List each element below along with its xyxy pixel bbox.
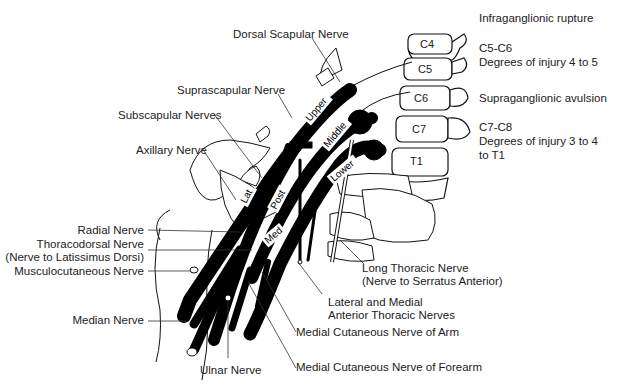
label-median-nerve: Median Nerve — [72, 314, 144, 327]
label-thoracodorsal-nerve: Thoracodorsal Nerve — [37, 238, 144, 251]
label-subscapular-nerves: Subscapular Nerves — [118, 109, 222, 122]
legend-supraganglionic-levels: C7-C8 — [479, 120, 512, 134]
label-anterior-thoracic-nerves-sub: Anterior Thoracic Nerves — [328, 309, 455, 322]
label-thoracodorsal-nerve-sub: (Nerve to Latissimus Dorsi) — [5, 251, 144, 264]
label-ulnar-nerve: Ulnar Nerve — [200, 364, 261, 377]
label-medial-cutaneous-nerve-arm: Medial Cutaneous Nerve of Arm — [296, 326, 459, 339]
legend-supraganglionic-title: Supraganglionic avulsion — [479, 91, 607, 105]
label-anterior-thoracic-nerves: Lateral and Medial — [328, 296, 423, 309]
legend-infraganglionic-title: Infraganglionic rupture — [479, 11, 593, 25]
legend-supraganglionic-degrees: Degrees of injury 3 to 4 — [479, 134, 598, 148]
label-medial-cutaneous-nerve-forearm: Medial Cutaneous Nerve of Forearm — [296, 361, 482, 374]
label-long-thoracic-nerve: Long Thoracic Nerve — [362, 262, 469, 275]
legend-infraganglionic-levels: C5-C6 — [479, 41, 512, 55]
vertebra-c5: C5 — [418, 63, 432, 75]
vertebra-c7: C7 — [412, 123, 426, 135]
legend-supraganglionic-degrees-2: to T1 — [479, 148, 505, 162]
vertebra-c4: C4 — [420, 38, 434, 50]
label-dorsal-scapular-nerve: Dorsal Scapular Nerve — [233, 28, 349, 41]
label-long-thoracic-nerve-sub: (Nerve to Serratus Anterior) — [362, 275, 503, 288]
label-musculocutaneous-nerve: Musculocutaneous Nerve — [14, 265, 144, 278]
label-radial-nerve: Radial Nerve — [78, 224, 144, 237]
legend-infraganglionic-degrees: Degrees of injury 4 to 5 — [479, 55, 598, 69]
vertebra-t1: T1 — [410, 155, 423, 167]
label-suprascapular-nerve: Suprascapular Nerve — [177, 84, 285, 97]
label-axillary-nerve: Axillary Nerve — [136, 144, 207, 157]
vertebra-c6: C6 — [414, 92, 428, 104]
